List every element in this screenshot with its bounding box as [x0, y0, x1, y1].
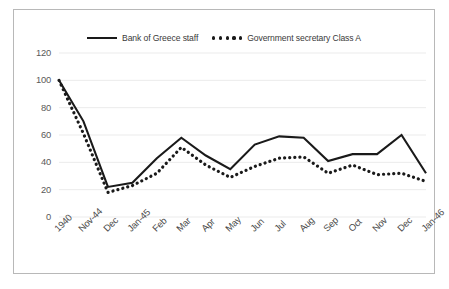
- y-axis-tick-label: 40: [25, 156, 51, 167]
- y-axis-tick-label: 60: [25, 129, 51, 140]
- y-axis-tick-label: 80: [25, 102, 51, 113]
- y-axis-tick-label: 100: [25, 74, 51, 85]
- y-axis-tick-label: 0: [25, 211, 51, 222]
- y-axis-tick-label: 120: [25, 47, 51, 58]
- y-axis-tick-label: 20: [25, 184, 51, 195]
- series-line-1: [59, 80, 426, 192]
- series-line-0: [59, 80, 426, 187]
- series-lines: [59, 80, 426, 192]
- gridlines: [59, 53, 426, 217]
- plot-area: [14, 10, 436, 275]
- chart-card: Bank of Greece staff Government secretar…: [13, 9, 435, 274]
